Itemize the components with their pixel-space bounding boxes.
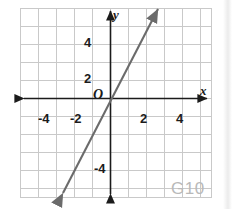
x-tick-label-pos2: 2: [140, 112, 147, 125]
graph-figure: -4 -2 2 4 4 2 -4 O x y G10: [0, 0, 232, 209]
plot-background: [20, 8, 212, 198]
y-axis-name: y: [113, 8, 119, 21]
coordinate-grid-graphic: [0, 0, 232, 209]
page-edge-shadow: [223, 0, 232, 209]
y-tick-label-pos2: 2: [84, 72, 91, 85]
x-tick-label-neg4: -4: [38, 112, 49, 125]
x-tick-label-neg2: -2: [70, 112, 81, 125]
watermark-label: G10: [171, 180, 205, 197]
origin-label: O: [93, 88, 103, 102]
y-tick-label-neg4: -4: [94, 162, 105, 175]
y-tick-label-pos4: 4: [84, 36, 91, 49]
x-tick-label-pos4: 4: [176, 112, 183, 125]
x-axis-name: x: [200, 84, 207, 97]
